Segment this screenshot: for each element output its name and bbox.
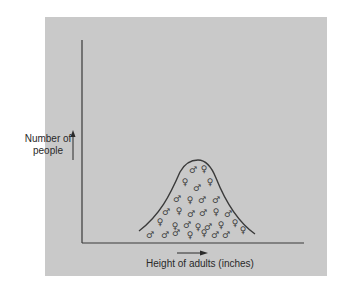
male-symbol-icon: ♂ <box>172 228 180 238</box>
female-symbol-icon: ♀ <box>232 218 239 228</box>
male-symbol-icon: ♂ <box>222 230 230 240</box>
y-axis-label-line1: Number of <box>16 133 80 145</box>
y-axis-label-line2: people <box>16 145 80 157</box>
female-symbol-icon: ♀ <box>207 177 214 187</box>
x-arrow-icon <box>177 251 208 256</box>
male-symbol-icon: ♂ <box>193 183 201 193</box>
male-symbol-icon: ♂ <box>199 208 207 218</box>
male-symbol-icon: ♂ <box>187 209 195 219</box>
y-axis-label: Number of people <box>16 133 80 157</box>
x-axis-label: Height of adults (inches) <box>120 258 280 269</box>
male-symbol-icon: ♂ <box>183 220 191 230</box>
male-symbol-icon: ♂ <box>146 230 154 240</box>
female-symbol-icon: ♀ <box>201 228 208 238</box>
female-symbol-icon: ♀ <box>157 217 164 227</box>
male-symbol-icon: ♂ <box>212 195 220 205</box>
male-symbol-icon: ♂ <box>161 230 169 240</box>
female-symbol-icon: ♀ <box>213 207 220 217</box>
female-symbol-icon: ♀ <box>218 220 225 230</box>
male-symbol-icon: ♂ <box>211 230 219 240</box>
female-symbol-icon: ♀ <box>187 195 194 205</box>
female-symbol-icon: ♀ <box>187 230 194 240</box>
female-symbol-icon: ♀ <box>182 177 189 187</box>
female-symbol-icon: ♀ <box>201 164 208 174</box>
male-symbol-icon: ♂ <box>162 207 170 217</box>
female-symbol-icon: ♀ <box>176 206 183 216</box>
male-symbol-icon: ♂ <box>189 165 197 175</box>
female-symbol-icon: ♀ <box>240 225 247 235</box>
male-symbol-icon: ♂ <box>198 195 206 205</box>
male-symbol-icon: ♂ <box>173 194 181 204</box>
people-symbols: ♂♀♀♂♀♂♀♂♂♂♀♂♂♀♂♀♀♂♀♂♀♀♂♂♂♀♀♂♂♀ <box>146 164 246 240</box>
